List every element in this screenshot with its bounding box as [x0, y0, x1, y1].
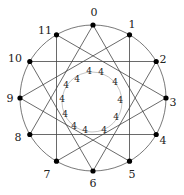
intersection-label: 4 — [98, 67, 104, 77]
vertex-label-2: 2 — [160, 53, 167, 66]
vertex-label-7: 7 — [44, 168, 51, 181]
intersection-label: 4 — [117, 95, 123, 105]
intersection-label: 4 — [101, 125, 107, 135]
inner-labels-group: 444444444444 — [59, 66, 123, 135]
edge-2-6 — [93, 62, 156, 172]
edge-0-4 — [93, 25, 156, 135]
edges-group — [20, 25, 166, 171]
intersection-label: 4 — [113, 112, 119, 122]
intersection-label: 4 — [112, 77, 118, 87]
vertex-label-4: 4 — [160, 134, 167, 147]
vertex-label-9: 9 — [7, 92, 14, 105]
outer-circle — [20, 25, 166, 171]
vertex-label-5: 5 — [129, 168, 136, 181]
vertex-10 — [27, 59, 32, 64]
vertex-label-10: 10 — [8, 52, 22, 65]
vertex-label-3: 3 — [170, 96, 177, 109]
vertex-labels-group: 01234567891011 — [7, 6, 177, 190]
vertex-label-0: 0 — [91, 6, 98, 19]
vertex-label-1: 1 — [129, 18, 136, 31]
vertex-1 — [127, 32, 132, 37]
vertex-label-8: 8 — [15, 131, 22, 144]
vertex-3 — [163, 95, 168, 100]
diagram-canvas: 444444444444 01234567891011 — [0, 0, 184, 195]
vertex-label-6: 6 — [90, 177, 97, 190]
edge-9-1 — [20, 35, 130, 98]
vertex-5 — [127, 159, 132, 164]
vertex-0 — [90, 22, 95, 27]
intersection-label: 4 — [74, 74, 80, 84]
vertex-9 — [17, 95, 22, 100]
intersection-label: 4 — [71, 121, 77, 131]
vertex-4 — [154, 132, 159, 137]
vertices-group — [17, 22, 168, 173]
intersection-label: 4 — [63, 80, 69, 90]
intersection-label: 4 — [59, 94, 65, 104]
vertex-6 — [90, 168, 95, 173]
intersection-label: 4 — [86, 66, 92, 76]
intersection-label: 4 — [82, 125, 88, 135]
edge-11-3 — [57, 35, 167, 98]
intersection-label: 4 — [62, 109, 68, 119]
vertex-11 — [54, 32, 59, 37]
vertex-7 — [54, 159, 59, 164]
vertex-label-11: 11 — [38, 24, 52, 37]
vertex-8 — [27, 132, 32, 137]
vertex-2 — [154, 59, 159, 64]
circular-graph-diagram: 444444444444 01234567891011 — [0, 0, 184, 195]
